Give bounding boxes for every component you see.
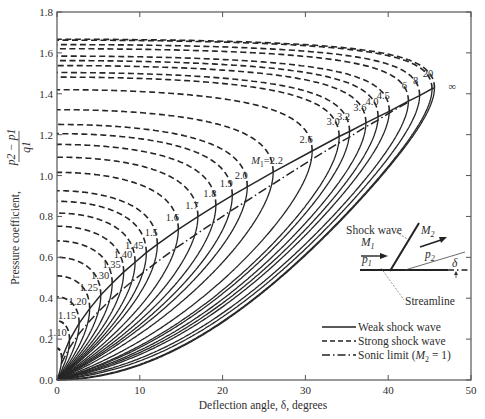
mach-curve-label: 8 (413, 75, 418, 86)
x-tick-label: 10 (134, 384, 146, 396)
inset-shock-wave-label: Shock wave (346, 224, 402, 236)
y-tick-label: 0.2 (39, 333, 53, 345)
x-tick-label: 50 (466, 384, 478, 396)
shock-inset-diagram: Shock wave M1 p1 M2 p2 δ Streamline (346, 223, 470, 307)
strong-shock-curve (57, 77, 339, 136)
mach-curve-label: 1.20 (68, 296, 86, 307)
strong-shock-curve (57, 61, 378, 117)
mach-curve-label: M1=2.2 (250, 155, 283, 169)
x-tick-label: 40 (383, 384, 395, 396)
mach-curve-label: 1.40 (114, 249, 132, 260)
inset-m2-label: M2 (420, 224, 435, 239)
mach-curve-label: 1.35 (102, 259, 120, 270)
y-tick-label: 1.6 (39, 47, 53, 59)
legend-strong-label: Strong shock wave (358, 335, 446, 348)
y-axis-title-numerator: p2 − p1 (5, 129, 18, 167)
x-tick-label: 0 (54, 384, 60, 396)
y-tick-label: 0.8 (39, 210, 53, 222)
mach-curve-label: 1.30 (91, 270, 109, 281)
mach-curve-label: 1.8 (203, 188, 216, 199)
y-tick-label: 1.2 (39, 129, 53, 141)
x-tick-label: 30 (300, 384, 312, 396)
y-axis-title-prefix: Pressure coefficient, (9, 191, 22, 285)
y-axis-title: Pressure coefficient, p2 − p1 q1 (5, 129, 33, 285)
legend-sonic-label: Sonic limit (M2 = 1) (358, 349, 451, 364)
mach-curve-label: 2.0 (235, 170, 248, 181)
weak-shock-curve (57, 123, 366, 380)
mach-curve-label: 1.5 (145, 227, 158, 238)
strong-shock-curve (57, 191, 157, 245)
inset-delta-label: δ (452, 257, 458, 269)
y-axis-title-denominator: q1 (20, 141, 33, 153)
strong-shock-curve (57, 157, 198, 216)
strong-shock-curve (57, 348, 62, 358)
y-tick-label: 0.4 (39, 292, 53, 304)
shock-polar-chart: 1.101.151.201.251.301.351.401.451.51.61.… (0, 0, 485, 419)
y-tick-label: 1.4 (39, 88, 53, 100)
mach-curve-label: 3.2 (337, 111, 350, 122)
inset-streamline-label: Streamline (405, 295, 455, 307)
y-tick-label: 0.6 (39, 251, 53, 263)
y-tick-label: 1.0 (39, 170, 53, 182)
mach-curve-label: ∞ (448, 81, 456, 92)
mach-curve-label: 1.45 (125, 240, 143, 251)
legend-weak-label: Weak shock wave (358, 321, 441, 333)
mach-curve-label: 6 (402, 80, 407, 91)
mach-curve-label: 1.7 (185, 200, 198, 211)
mach-curve-label: 20 (423, 68, 434, 79)
mach-curve-label: 3.6 (353, 102, 366, 113)
x-axis-title: Deflection angle, δ, degrees (199, 399, 328, 412)
weak-shock-curve (57, 117, 378, 380)
strong-shock-curve (57, 90, 312, 151)
y-tick-label: 0.0 (39, 374, 53, 386)
mach-curve-label: 1.9 (220, 178, 233, 189)
y-tick-label: 1.8 (39, 6, 53, 18)
inset-m1-label: M1 (360, 236, 375, 251)
strong-shock-curve (57, 45, 420, 96)
strong-shock-curve (57, 172, 178, 229)
mach-curve-label: 2.6 (300, 134, 313, 145)
strong-shock-curve (57, 110, 273, 172)
mach-curve-label: 1.25 (80, 282, 98, 293)
mach-curve-label: 1.15 (58, 310, 76, 321)
inset-p2-label: p2 (424, 248, 435, 263)
legend: Weak shock wave Strong shock wave Sonic … (322, 321, 451, 364)
x-tick-label: 20 (217, 384, 229, 396)
mach-curve-label: 1.6 (166, 212, 179, 223)
mach-curve-label: 4.5 (377, 90, 390, 101)
inset-p1-label: p1 (361, 253, 372, 268)
